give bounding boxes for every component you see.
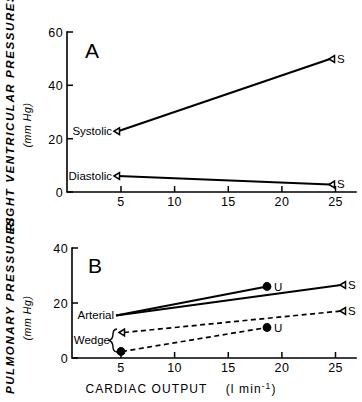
panel-b-ytick-40: 40 [53,242,68,256]
series-wedge-s [119,308,346,336]
panel-a-y-axis-units: (mm Hg) [21,102,33,147]
panel-a-endlabel-systolic: S [337,53,345,65]
x-axis-title-main: CARDIAC OUTPUT [85,382,207,396]
panel-a-xtick-15: 15 [221,195,236,209]
marker-filled-circle [263,283,271,291]
panel-b-xtick-20: 20 [275,361,290,375]
panel-a-y-axis-title: RIGHT VENTRICULAR PRESSURES [4,0,16,231]
panel-b-endlabel-wedge-u: U [274,322,282,334]
panel-a-label-systolic: Systolic [72,125,112,137]
marker-filled-circle [117,348,125,356]
panel-b-xtick-25: 25 [328,361,343,375]
panel-b-y-axis-units: (mm Hg) [21,295,33,340]
panel-a: RIGHT VENTRICULAR PRESSURES (mm Hg) 60 4… [4,0,356,231]
panel-b-xtick-15: 15 [221,361,236,375]
series-diastolic [114,173,335,188]
series-systolic [114,56,335,135]
panel-a-xtick-5: 5 [117,195,124,209]
panel-a-label-diastolic: Diastolic [69,170,113,182]
panel-a-endlabel-diastolic: S [337,178,345,190]
two-panel-line-chart: RIGHT VENTRICULAR PRESSURES (mm Hg) 60 4… [0,0,362,402]
panel-b-x-ticks [121,352,336,358]
marker-open-triangle [329,56,335,63]
wedge-brace [109,329,117,352]
panel-a-xtick-25: 25 [328,195,343,209]
panel-b: PULMONARY PRESSURES (mm Hg) 40 20 0 5 [4,216,356,394]
panel-a-xtick-10: 10 [167,195,182,209]
panel-b-xtick-10: 10 [167,361,182,375]
marker-open-triangle [340,282,346,289]
panel-a-x-ticks [121,186,336,192]
panel-a-ytick-0: 0 [56,186,63,200]
marker-open-triangle [119,329,125,336]
x-axis-title-units-pre: (l min [226,382,262,396]
x-axis-title-units-sup: -1 [262,381,272,391]
panel-b-label-wedge: Wedge [74,334,110,346]
panel-b-label-arterial: Arterial [78,309,114,321]
marker-open-triangle [114,173,120,180]
panel-a-axes [67,32,356,192]
panel-a-y-ticks [67,32,73,192]
series-arterial-s [116,282,346,316]
panel-b-ytick-0: 0 [61,352,68,366]
panel-b-y-axis-title: PULMONARY PRESSURES [4,216,16,394]
marker-open-triangle [114,128,120,135]
panel-b-letter: B [88,254,103,277]
marker-open-triangle [340,308,346,315]
series-wedge-u [117,324,271,356]
x-axis-title-group: CARDIAC OUTPUT (l min-1) [85,381,276,396]
panel-b-endlabel-arterial-u: U [274,281,282,293]
x-axis-title-units-post: ) [271,382,276,396]
panel-a-ytick-20: 20 [48,133,63,147]
panel-a-letter: A [85,39,100,62]
panel-a-ytick-60: 60 [48,26,63,40]
figure-container: RIGHT VENTRICULAR PRESSURES (mm Hg) 60 4… [0,0,362,402]
panel-b-endlabel-arterial-s: S [348,279,356,291]
panel-a-xtick-20: 20 [275,195,290,209]
marker-open-triangle [329,181,335,188]
panel-b-ytick-20: 20 [53,297,68,311]
svg-text:CARDIAC OUTPUT (l min-: CARDIAC OUTPUT (l min-1) [85,381,276,396]
series-arterial-u [116,283,271,316]
panel-a-ytick-40: 40 [48,79,63,93]
panel-b-endlabel-wedge-s: S [348,305,356,317]
marker-filled-circle [263,324,271,332]
panel-b-xtick-5: 5 [117,361,124,375]
